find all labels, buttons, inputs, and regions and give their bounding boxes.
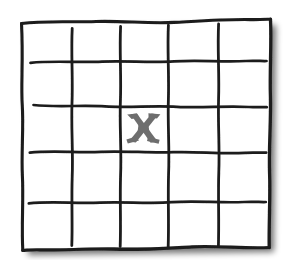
grid-line-vertical-4 [218,24,219,247]
grid-line-vertical-2 [120,27,121,247]
grid-line-horizontal-4 [29,202,266,204]
grid-line-horizontal-2 [34,105,267,107]
border-right [269,19,271,247]
grid-line-horizontal-1 [31,61,267,63]
sketch-canvas [0,0,294,260]
grid-line-vertical-3 [168,25,169,247]
border-left [22,24,23,251]
hand-drawn-grid [0,0,294,260]
